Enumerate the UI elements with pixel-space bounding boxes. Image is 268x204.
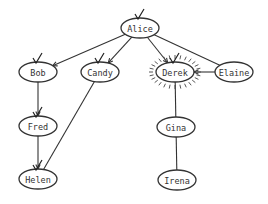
node-elaine[interactable]: Elaine	[215, 62, 253, 82]
node-label: Derek	[162, 68, 188, 78]
edge-alice-bob	[53, 34, 126, 65]
edge-gina-irena	[176, 137, 177, 170]
nodes-layer: AliceBobCandyDerekElaineFredGinaHelenIre…	[19, 9, 253, 190]
edge-alice-candy	[108, 37, 132, 63]
node-irena[interactable]: Irena	[158, 170, 196, 190]
node-label: Helen	[25, 175, 51, 185]
node-label: Irena	[164, 176, 190, 186]
node-label: Candy	[87, 68, 113, 78]
node-label: Bob	[30, 68, 45, 78]
node-label: Elaine	[219, 68, 250, 78]
node-gina[interactable]: Gina	[157, 117, 195, 137]
node-label: Gina	[166, 123, 186, 133]
node-alice[interactable]: Alice	[121, 9, 159, 38]
node-label: Alice	[127, 24, 153, 34]
edges-layer	[36, 34, 220, 170]
node-bob[interactable]: Bob	[19, 53, 57, 82]
tree-diagram: AliceBobCandyDerekElaineFredGinaHelenIre…	[0, 0, 268, 204]
node-label: Fred	[28, 122, 48, 132]
